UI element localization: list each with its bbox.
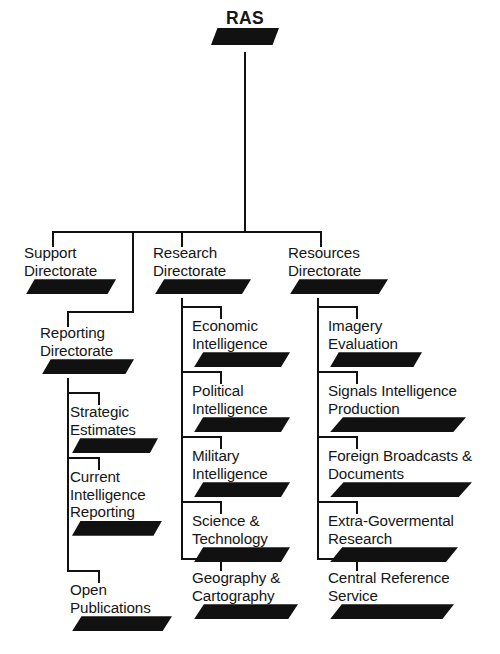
node-research-directorate: Research Directorate bbox=[153, 244, 275, 294]
node-reporting-directorate-label: Reporting Directorate bbox=[40, 324, 160, 359]
node-extra-govermental-research-label: Extra-Govermental Research bbox=[328, 512, 478, 547]
node-central-reference-service: Central Reference Service bbox=[328, 569, 474, 619]
node-strategic-estimates-bar bbox=[72, 438, 158, 453]
node-support-directorate-bar bbox=[26, 279, 116, 294]
node-ras: RAS bbox=[196, 8, 294, 45]
node-science-technology-bar bbox=[194, 547, 290, 562]
node-signals-intelligence-production-bar bbox=[330, 417, 466, 432]
node-foreign-broadcasts-documents-bar bbox=[330, 482, 472, 497]
connector-reporting-stub-3 bbox=[67, 570, 100, 572]
node-research-directorate-label: Research Directorate bbox=[153, 244, 275, 279]
connector-main-bus bbox=[52, 231, 322, 233]
connector-research-stub-2 bbox=[181, 371, 222, 373]
node-imagery-evaluation-label: Imagery Evaluation bbox=[328, 317, 452, 352]
node-geography-cartography-bar bbox=[194, 604, 298, 619]
connector-resources-stub-3 bbox=[317, 436, 358, 438]
node-central-reference-service-bar bbox=[330, 604, 454, 619]
node-reporting-directorate: Reporting Directorate bbox=[40, 324, 160, 374]
node-current-intelligence-reporting: Current Intelligence Reporting bbox=[70, 468, 192, 536]
organizational-chart: RAS Support Directorate Reporting Direct… bbox=[0, 0, 500, 654]
connector-reporting-stub-2 bbox=[67, 457, 100, 459]
connector-resources-stub-2 bbox=[317, 371, 358, 373]
node-strategic-estimates-label: Strategic Estimates bbox=[70, 403, 186, 438]
node-open-publications: Open Publications bbox=[70, 581, 198, 631]
node-economic-intelligence-label: Economic Intelligence bbox=[192, 317, 316, 352]
node-science-technology-label: Science & Technology bbox=[192, 512, 316, 547]
node-political-intelligence-label: Political Intelligence bbox=[192, 382, 316, 417]
connector-resources-stub-1 bbox=[317, 306, 358, 308]
node-military-intelligence: Military Intelligence bbox=[192, 447, 316, 497]
node-extra-govermental-research-bar bbox=[330, 547, 458, 562]
node-geography-cartography-label: Geography & Cartography bbox=[192, 569, 322, 604]
connector-reporting-spine bbox=[67, 378, 69, 572]
node-central-reference-service-label: Central Reference Service bbox=[328, 569, 474, 604]
node-political-intelligence-bar bbox=[194, 417, 290, 432]
connector-research-stub-1 bbox=[181, 306, 222, 308]
node-research-directorate-bar bbox=[155, 279, 251, 294]
node-resources-directorate: Resources Directorate bbox=[288, 244, 414, 294]
node-signals-intelligence-production-label: Signals Intelligence Production bbox=[328, 382, 482, 417]
node-foreign-broadcasts-documents: Foreign Broadcasts & Documents bbox=[328, 447, 488, 497]
node-resources-directorate-bar bbox=[290, 279, 388, 294]
node-resources-directorate-label: Resources Directorate bbox=[288, 244, 414, 279]
connector-research-spine bbox=[181, 298, 183, 560]
node-current-intelligence-reporting-bar bbox=[72, 521, 162, 536]
node-open-publications-bar bbox=[72, 616, 172, 631]
node-foreign-broadcasts-documents-label: Foreign Broadcasts & Documents bbox=[328, 447, 488, 482]
node-military-intelligence-bar bbox=[194, 482, 290, 497]
node-economic-intelligence: Economic Intelligence bbox=[192, 317, 316, 367]
connector-resources-spine bbox=[317, 298, 319, 560]
connector-drop-reporting-horizontal bbox=[67, 311, 134, 313]
node-strategic-estimates: Strategic Estimates bbox=[70, 403, 186, 453]
connector-resources-stub-4 bbox=[317, 501, 358, 503]
node-ras-label: RAS bbox=[196, 8, 294, 28]
node-support-directorate: Support Directorate bbox=[24, 244, 142, 294]
node-current-intelligence-reporting-label: Current Intelligence Reporting bbox=[70, 468, 192, 521]
node-geography-cartography: Geography & Cartography bbox=[192, 569, 322, 619]
node-signals-intelligence-production: Signals Intelligence Production bbox=[328, 382, 482, 432]
connector-root-trunk bbox=[244, 52, 246, 232]
node-political-intelligence: Political Intelligence bbox=[192, 382, 316, 432]
node-science-technology: Science & Technology bbox=[192, 512, 316, 562]
connector-research-stub-4 bbox=[181, 501, 222, 503]
node-ras-bar bbox=[211, 28, 279, 45]
node-imagery-evaluation-bar bbox=[330, 352, 422, 367]
node-imagery-evaluation: Imagery Evaluation bbox=[328, 317, 452, 367]
node-support-directorate-label: Support Directorate bbox=[24, 244, 142, 279]
node-economic-intelligence-bar bbox=[194, 352, 290, 367]
node-military-intelligence-label: Military Intelligence bbox=[192, 447, 316, 482]
node-reporting-directorate-bar bbox=[42, 359, 134, 374]
node-extra-govermental-research: Extra-Govermental Research bbox=[328, 512, 478, 562]
node-open-publications-label: Open Publications bbox=[70, 581, 198, 616]
connector-reporting-stub-1 bbox=[67, 392, 100, 394]
connector-research-stub-3 bbox=[181, 436, 222, 438]
